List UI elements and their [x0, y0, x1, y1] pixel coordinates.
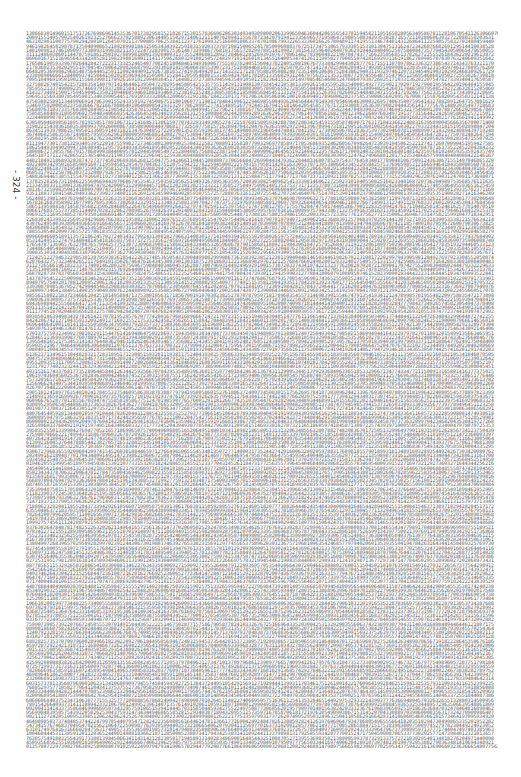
digit-line: 0135780722973982706389258908807910250224… [26, 744, 498, 748]
document-page: - 324 - 13066830149601517517367698696145… [0, 0, 521, 777]
digit-text-block: 1306683014960151751736769869614535367017… [26, 31, 498, 751]
page-number: - 324 - [11, 170, 21, 199]
